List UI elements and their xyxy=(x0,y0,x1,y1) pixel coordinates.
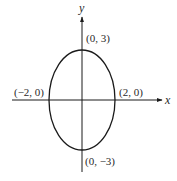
diagram-canvas: x y (0, 3) (0, −3) (−2, 0) (2, 0) xyxy=(0,0,177,181)
x-axis-label: x xyxy=(164,93,171,107)
label-top-vertex: (0, 3) xyxy=(86,32,110,45)
label-bottom-vertex: (0, −3) xyxy=(85,155,115,168)
ellipse-diagram: x y (0, 3) (0, −3) (−2, 0) (2, 0) xyxy=(0,0,177,181)
label-left-vertex: (−2, 0) xyxy=(14,86,44,99)
label-right-vertex: (2, 0) xyxy=(119,86,143,99)
y-axis-label: y xyxy=(78,1,85,15)
